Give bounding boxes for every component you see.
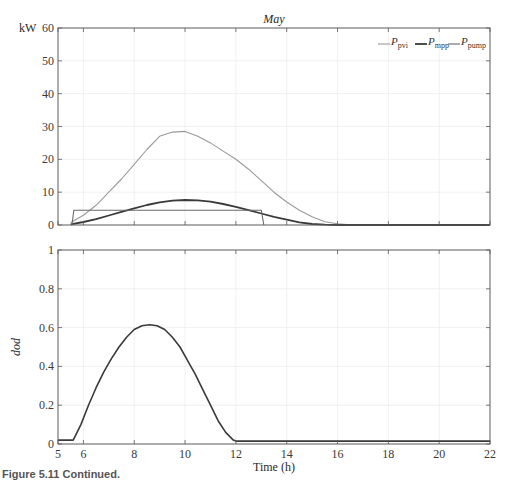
y-tick-label: 0	[48, 218, 54, 232]
x-tick-label: 14	[281, 447, 293, 461]
y-tick-label: 0.6	[39, 321, 54, 335]
power-chart-panel: 0102030405060MaykWPpviPmppPpump	[19, 12, 490, 232]
legend: PpviPmppPpump	[378, 35, 486, 50]
x-tick-label: 8	[131, 447, 137, 461]
data-series	[58, 325, 490, 441]
y-tick-label: 0.8	[39, 282, 54, 296]
y-axis-label: kW	[19, 21, 37, 35]
x-tick-label: 18	[382, 447, 394, 461]
x-tick-label: 20	[433, 447, 445, 461]
y-tick-label: 20	[42, 152, 54, 166]
legend-label: Ppvi	[390, 35, 409, 50]
x-tick-label: 12	[230, 447, 242, 461]
y-tick-label: 10	[42, 185, 54, 199]
figure: 0102030405060MaykWPpviPmppPpump 00.20.40…	[0, 0, 507, 481]
x-tick-label: 16	[332, 447, 344, 461]
y-tick-label: 0.4	[39, 359, 54, 373]
y-tick-label: 0	[48, 437, 54, 451]
data-series	[71, 131, 490, 225]
y-tick-label: 1	[48, 243, 54, 257]
chart-title: May	[262, 12, 285, 26]
y-tick-label: 30	[42, 120, 54, 134]
grid-lines	[58, 250, 490, 444]
dod-chart-panel: 00.20.40.60.8156810121416182022Time (h)d…	[9, 243, 496, 474]
figure-caption: Figure 5.11 Continued.	[2, 468, 120, 480]
x-axis-label: Time (h)	[253, 460, 295, 474]
y-tick-label: 0.2	[39, 398, 54, 412]
ticks	[58, 250, 490, 444]
y-tick-label: 50	[42, 54, 54, 68]
y-tick-label: 40	[42, 87, 54, 101]
x-tick-label: 6	[80, 447, 86, 461]
series-line-p-pvi	[71, 131, 490, 225]
y-axis-label: dod	[9, 337, 23, 356]
legend-label: Pmpp	[427, 35, 449, 50]
series-line-p-mpp	[71, 200, 490, 225]
series-line-dod	[58, 325, 490, 441]
grid-lines	[58, 28, 490, 225]
x-tick-label: 5	[55, 447, 61, 461]
axes-box	[58, 250, 490, 444]
y-tick-label: 60	[42, 21, 54, 35]
legend-label: Ppump	[460, 35, 486, 50]
x-tick-label: 22	[484, 447, 496, 461]
x-tick-label: 10	[179, 447, 191, 461]
